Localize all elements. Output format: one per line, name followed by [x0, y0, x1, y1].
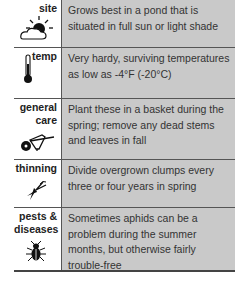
- row-label-cell: temp: [14, 48, 61, 98]
- table-row-temp: temp Very hardy, surviving temperatures …: [14, 47, 235, 98]
- table-row-thinning: thinning Divide overgrown clumps every t…: [14, 159, 235, 207]
- beetle-icon: [25, 241, 47, 263]
- table-row-pests-diseases: pests & diseases Sometimes aphids can be…: [14, 207, 235, 272]
- row-text: Very hardy, surviving temperatures as lo…: [61, 48, 235, 98]
- table-row-general-care: general care Plant these in a basket dur…: [14, 98, 235, 159]
- row-text: Plant these in a basket during the sprin…: [61, 99, 235, 159]
- row-label-cell: thinning: [14, 160, 61, 207]
- wheelbarrow-icon: [20, 131, 56, 153]
- row-label: temp: [14, 50, 57, 63]
- row-text: Grows best in a pond that is situated in…: [61, 0, 235, 47]
- row-label: pests & diseases: [14, 210, 57, 236]
- sun-cloud-icon: [19, 14, 53, 42]
- row-text: Divide overgrown clumps every three or f…: [61, 160, 235, 207]
- table-row-site: site Grows best in a pond that is situat…: [14, 0, 235, 47]
- plant-care-table: site Grows best in a pond that is situat…: [14, 0, 235, 272]
- row-text: Sometimes aphids can be a problem during…: [61, 208, 235, 270]
- row-label: thinning: [14, 162, 57, 175]
- pruning-shears-icon: [24, 178, 48, 202]
- row-label-cell: general care: [14, 99, 61, 159]
- row-label: general care: [14, 101, 57, 127]
- row-label-cell: site: [14, 0, 61, 47]
- row-label-cell: pests & diseases: [14, 208, 61, 270]
- thermometer-icon: [23, 54, 33, 84]
